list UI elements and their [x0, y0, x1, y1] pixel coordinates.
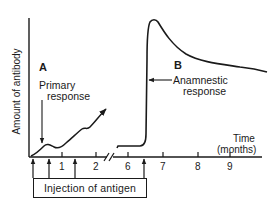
tick-label-7: 7 [160, 162, 166, 172]
label-b: B [174, 60, 182, 71]
injection-of-antigen-box: Injection of antigen [33, 178, 147, 198]
primary-response-label-line2: response [47, 91, 90, 102]
antibody-response-diagram: Amount of antibody 1 2 6 7 8 9 Time (mon… [0, 0, 279, 212]
tick-label-6: 6 [125, 162, 131, 172]
x-axis-label-time: Time [226, 134, 262, 144]
tick-label-2: 2 [93, 162, 99, 172]
tick-label-8: 8 [195, 162, 201, 172]
anamnestic-response-label-line2: response [183, 86, 226, 97]
anamnestic-response-label-line1: Anamnestic [173, 75, 228, 86]
label-a: A [39, 62, 47, 73]
tick-label-9: 9 [227, 162, 233, 172]
x-axis-label-months: (months) [217, 145, 256, 155]
primary-response-label-line1: Primary [39, 80, 75, 91]
injection-of-antigen-label: Injection of antigen [34, 179, 146, 197]
tick-label-1: 1 [59, 162, 65, 172]
y-axis-label: Amount of antibody [11, 32, 22, 152]
